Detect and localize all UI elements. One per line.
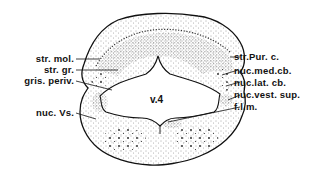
label-nuc-lat-cb: nuc.lat. cb. [234, 78, 286, 88]
nuc-med-cb-region [214, 69, 230, 79]
label-nuc-vs: nuc. Vs. [36, 108, 74, 118]
label-nuc-med-cb: nuc.med.cb. [234, 66, 292, 76]
label-nuc-vest-sup: nuc.vest. sup. [234, 90, 300, 100]
label-f-l-m: f.l.m. [234, 102, 257, 112]
label-str-pur-c: str.Pur. c. [234, 52, 279, 62]
nuc-vs-region [92, 92, 108, 112]
label-str-gr: str. gr. [44, 65, 74, 75]
nuc-vest-sup-region [219, 94, 233, 106]
label-str-mol: str. mol. [36, 54, 74, 64]
nuc-lat-cb-region [218, 81, 232, 91]
ventral-tegmentum-left [102, 128, 146, 152]
ventral-tegmentum-right [174, 126, 218, 150]
label-v4: v.4 [150, 94, 163, 105]
label-gris-periv: gris. periv. [24, 76, 74, 86]
left-nuclei-region [91, 73, 109, 87]
